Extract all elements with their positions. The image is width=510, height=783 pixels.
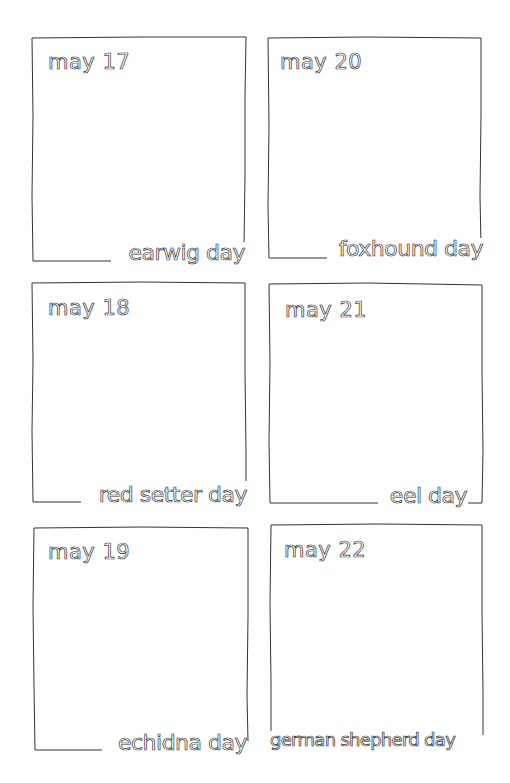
holiday-label: earwig day	[127, 242, 245, 264]
day-card-may-19: may 19 echidna day	[32, 526, 250, 754]
day-card-may-21: may 21 eel day	[268, 282, 484, 506]
holiday-label: german shepherd day	[269, 731, 455, 749]
date-label: may 19	[48, 542, 130, 563]
holiday-label: echidna day	[117, 732, 247, 754]
date-label: may 17	[48, 52, 130, 73]
holiday-label: eel day	[389, 485, 467, 507]
date-label: may 22	[284, 540, 366, 561]
date-label: may 20	[280, 52, 362, 73]
holiday-label: red setter day	[98, 484, 247, 506]
day-card-may-22: may 22 german shepherd day	[269, 523, 485, 753]
date-label: may 18	[48, 298, 130, 319]
day-card-may-17: may 17 earwig day	[31, 36, 247, 264]
holiday-label: foxhound day	[338, 238, 483, 260]
date-label: may 21	[285, 300, 367, 321]
day-card-may-20: may 20 foxhound day	[267, 36, 483, 262]
day-card-may-18: may 18 red setter day	[31, 281, 247, 505]
